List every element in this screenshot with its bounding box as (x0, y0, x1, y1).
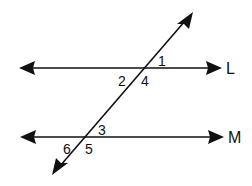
transversal-line (52, 12, 193, 175)
angle-label-4: 4 (141, 73, 149, 89)
line-m (20, 130, 224, 144)
line-label-m: M (228, 129, 241, 146)
angle-label-6: 6 (63, 141, 71, 157)
angle-label-2: 2 (118, 73, 126, 89)
arrowhead-left-icon (20, 130, 36, 144)
diagram-svg: 1 2 4 3 6 5 L M (0, 0, 252, 186)
angle-label-3: 3 (98, 122, 106, 138)
diagram-canvas: 1 2 4 3 6 5 L M (0, 0, 252, 186)
line-label-l: L (226, 60, 235, 77)
angle-label-5: 5 (85, 141, 93, 157)
arrowhead-right-icon (208, 130, 224, 144)
arrowhead-left-icon (19, 61, 35, 75)
angle-label-1: 1 (158, 53, 166, 69)
arrowhead-right-icon (206, 61, 222, 75)
